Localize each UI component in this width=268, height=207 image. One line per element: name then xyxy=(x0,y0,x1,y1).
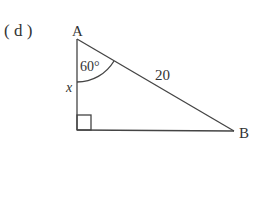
vertex-b-label: B xyxy=(239,125,249,141)
side-hypotenuse xyxy=(77,39,234,131)
problem-label: ( d ) xyxy=(4,21,32,40)
hypotenuse-label: 20 xyxy=(155,67,170,83)
angle-label: 60° xyxy=(80,59,100,74)
vertex-a-label: A xyxy=(72,23,83,39)
triangle-shape xyxy=(77,39,234,131)
side-x-label: x xyxy=(65,80,73,95)
right-angle-marker xyxy=(77,115,91,130)
triangle-diagram: ( d ) A B 60° 20 x xyxy=(0,0,268,207)
side-base xyxy=(77,130,234,131)
